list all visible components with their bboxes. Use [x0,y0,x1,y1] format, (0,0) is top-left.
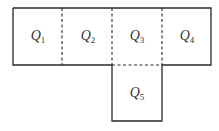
label-letter: Q [130,85,140,100]
label-q4: Q4 [180,28,195,45]
net-diagram [0,0,219,131]
label-subscript: 5 [140,92,145,102]
label-letter: Q [81,28,91,43]
label-letter: Q [180,28,190,43]
label-letter: Q [130,28,140,43]
label-subscript: 2 [91,35,96,45]
label-subscript: 4 [190,35,195,45]
label-q5: Q5 [130,85,145,102]
label-subscript: 3 [140,35,145,45]
label-q2: Q2 [81,28,96,45]
label-letter: Q [31,28,41,43]
label-q1: Q1 [31,28,46,45]
label-subscript: 1 [41,35,46,45]
label-q3: Q3 [130,28,145,45]
